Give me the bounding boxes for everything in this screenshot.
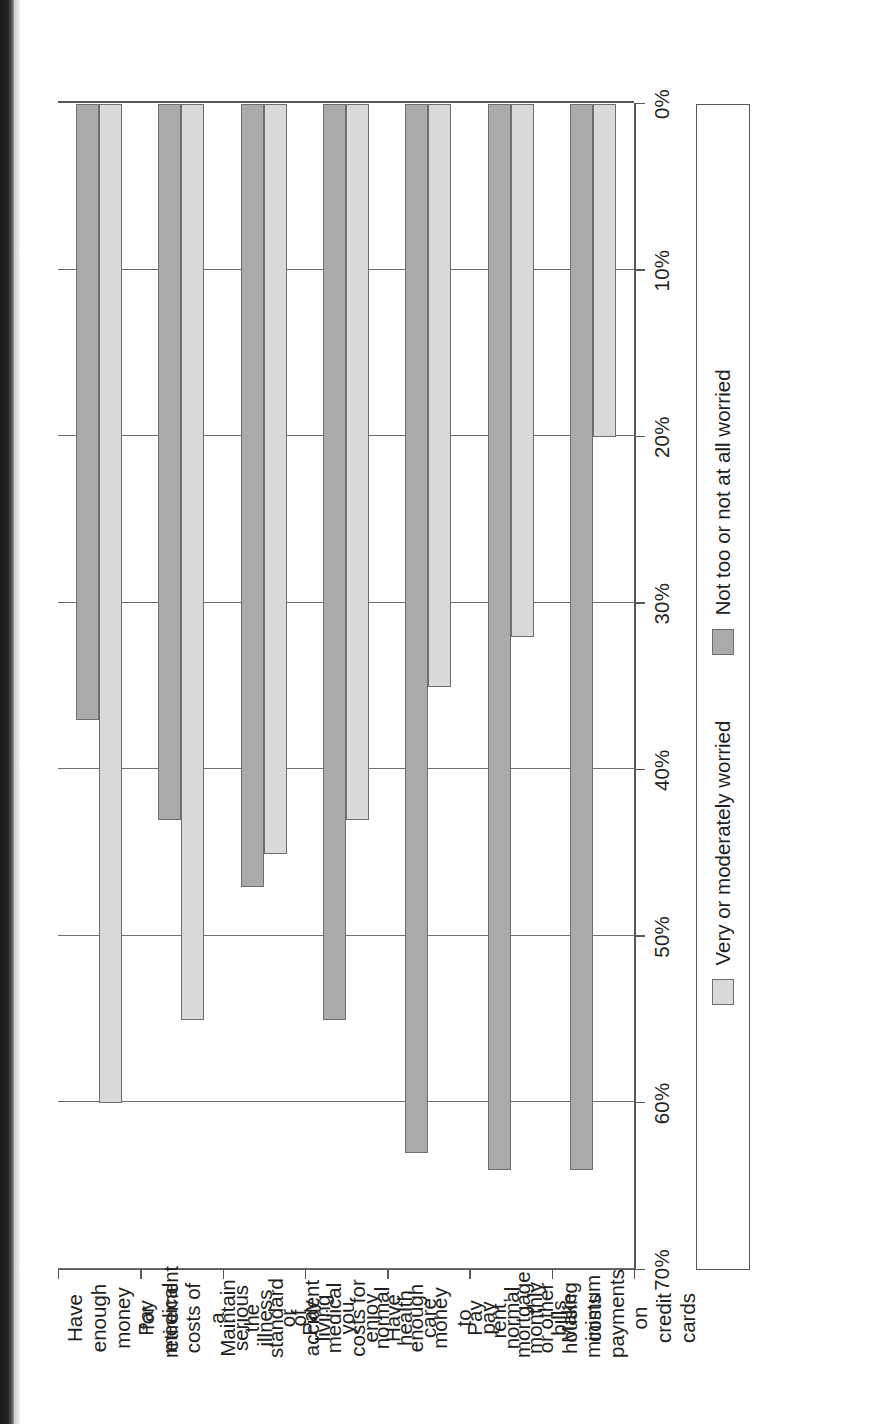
tick-mark [634, 436, 645, 437]
chart-legend: Very or moderately worriedNot too or not… [696, 104, 750, 1270]
value-axis-line [634, 104, 636, 1270]
bar-worried [510, 104, 533, 637]
tick-label: 40% [650, 749, 674, 791]
bar-group [405, 104, 451, 1270]
bar-group [569, 104, 615, 1270]
bar-group [158, 104, 204, 1270]
category-label-line: Pay rent, [462, 1278, 510, 1358]
gridline-0% [58, 101, 634, 103]
category-label-line: Maintain the [216, 1278, 264, 1358]
category-label-line: credit cards [652, 1278, 700, 1358]
category-label-line: Pay medical [298, 1278, 346, 1358]
tick-mark [634, 769, 645, 770]
scan-edge-artifact [0, 0, 14, 1424]
plot-wrapper: 0%10%20%30%40%50%60%70% Have enoughmoney… [58, 104, 634, 1270]
tick-label: 30% [650, 583, 674, 625]
category-label-line: Have enough [63, 1278, 111, 1358]
chart-page: 0%10%20%30%40%50%60%70% Have enoughmoney… [0, 0, 871, 1424]
category-label-line: mortgage [510, 1278, 534, 1358]
bar-not-worried [405, 104, 428, 1153]
tick-mark [634, 103, 645, 104]
bar-worried [345, 104, 368, 820]
category-label-line: payments on [604, 1278, 652, 1358]
tick-label: 10% [650, 250, 674, 292]
tick-label: 50% [650, 916, 674, 958]
bar-worried [592, 104, 615, 437]
bar-worried [263, 104, 286, 854]
legend-item[interactable]: Very or moderately worried [711, 721, 735, 1005]
legend-label: Not too or not at all worried [711, 369, 735, 615]
bar-not-worried [322, 104, 345, 1020]
rotated-chart-stage: 0%10%20%30%40%50%60%70% Have enoughmoney… [36, 62, 836, 1362]
scan-edge-gradient [14, 0, 20, 1424]
tick-label: 20% [650, 416, 674, 458]
bar-group [322, 104, 368, 1270]
tick-label: 60% [650, 1083, 674, 1125]
tick-mark [634, 935, 645, 936]
bar-group [240, 104, 286, 1270]
legend-swatch-icon [712, 629, 734, 655]
tick-mark [634, 602, 645, 603]
bar-worried [99, 104, 122, 1103]
category-label: Make minimumpayments oncredit cards [557, 1278, 700, 1358]
legend-item[interactable]: Not too or not at all worried [711, 369, 735, 654]
category-label-line: Pay medical [133, 1278, 181, 1358]
bar-group [487, 104, 533, 1270]
tick-label: 0% [650, 89, 674, 119]
bar-not-worried [76, 104, 99, 720]
category-label-line: Have enough [380, 1278, 428, 1358]
bar-worried [181, 104, 204, 1020]
tick-mark [634, 269, 645, 270]
bar-not-worried [158, 104, 181, 820]
category-label-line: Make minimum [557, 1278, 605, 1358]
bar-not-worried [569, 104, 592, 1170]
legend-swatch-icon [712, 979, 734, 1005]
category-tick [58, 1270, 59, 1279]
category-label-line: costs for [345, 1278, 369, 1358]
bar-group [76, 104, 122, 1270]
tick-mark [634, 1102, 645, 1103]
bar-not-worried [240, 104, 263, 887]
bar-worried [428, 104, 451, 687]
legend-label: Very or moderately worried [711, 721, 735, 966]
bar-not-worried [487, 104, 510, 1170]
